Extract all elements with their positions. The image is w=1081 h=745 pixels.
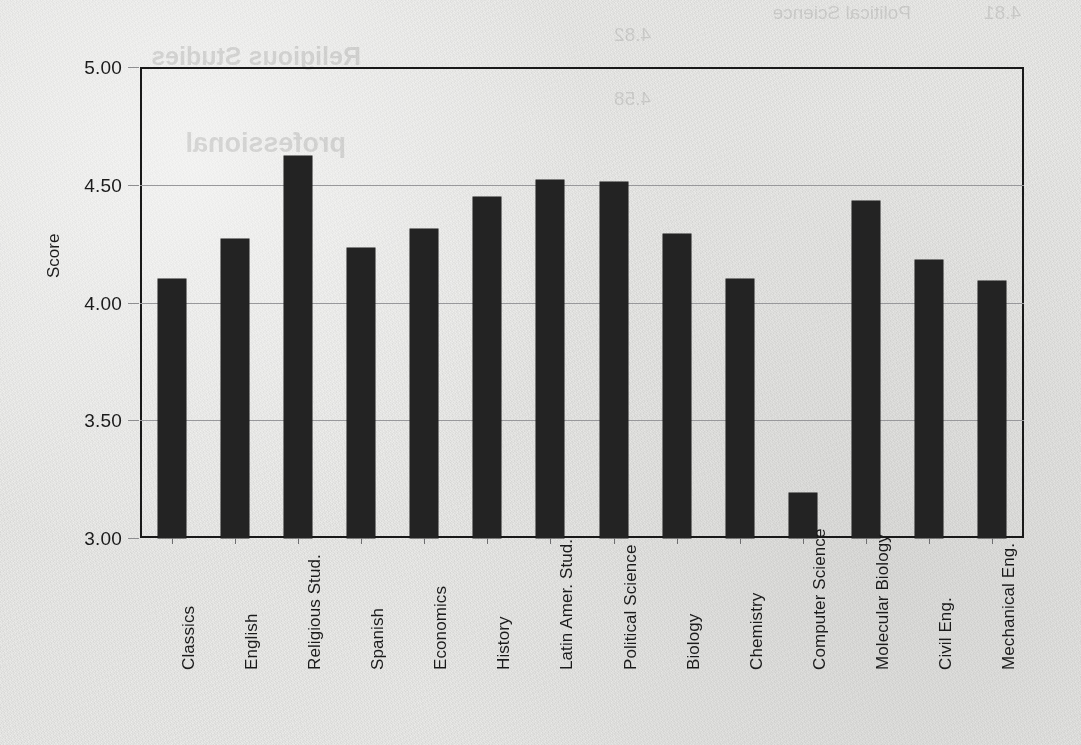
- x-axis-tick-mark: [740, 538, 741, 544]
- x-axis-tick-label: Economics: [431, 586, 451, 670]
- bar: [536, 180, 564, 538]
- x-axis-tick-label: Chemistry: [747, 593, 767, 670]
- bar: [158, 279, 186, 538]
- x-axis-tick-mark: [929, 538, 930, 544]
- x-axis-tick-label: Civil Eng.: [936, 597, 956, 670]
- bar-chart: 5.004.504.003.503.00 ClassicsEnglishReli…: [0, 0, 1081, 745]
- bar: [915, 260, 943, 538]
- bar: [600, 182, 628, 538]
- y-axis-tick: 4.00: [0, 293, 122, 313]
- y-axis-tick-mark: [128, 67, 139, 68]
- x-axis-tick-label: History: [494, 616, 514, 670]
- y-axis-tick: 3.50: [0, 410, 122, 430]
- x-axis-tick-label: Molecular Biology: [873, 534, 893, 670]
- y-axis-tick-mark: [128, 420, 139, 421]
- x-axis-tick-mark: [361, 538, 362, 544]
- x-axis-tick-label: Spanish: [368, 608, 388, 670]
- bar: [852, 201, 880, 538]
- y-axis-tick-mark: [128, 303, 139, 304]
- x-axis-tick-label: Mechanical Eng.: [999, 543, 1019, 670]
- bar: [726, 279, 754, 538]
- y-axis-tick-label: 5.00: [0, 57, 122, 79]
- y-axis-tick: 3.00: [0, 528, 122, 548]
- y-axis-tick-label: 4.50: [0, 175, 122, 197]
- y-axis-tick: 5.00: [0, 57, 122, 77]
- x-axis-tick-mark: [298, 538, 299, 544]
- x-axis-tick-label: English: [242, 614, 262, 670]
- x-axis-tick-label: Classics: [179, 606, 199, 670]
- bar: [663, 234, 691, 538]
- bar: [978, 281, 1006, 538]
- gridline: [140, 303, 1024, 304]
- y-axis-tick-mark: [128, 538, 139, 539]
- bar: [284, 156, 312, 538]
- y-axis-tick-mark: [128, 185, 139, 186]
- x-axis-tick-mark: [677, 538, 678, 544]
- x-axis-tick-label: Biology: [684, 614, 704, 670]
- gridline: [140, 420, 1024, 421]
- x-axis-tick-label: Latin Amer. Stud.: [557, 539, 577, 670]
- bar: [410, 229, 438, 538]
- bar: [473, 197, 501, 538]
- y-axis-tick: 4.50: [0, 175, 122, 195]
- bar: [347, 248, 375, 538]
- x-axis-tick-mark: [803, 538, 804, 544]
- y-axis-tick-label: 3.50: [0, 410, 122, 432]
- x-axis-tick-label: Computer Science: [810, 529, 830, 670]
- x-axis-tick-mark: [487, 538, 488, 544]
- x-axis-tick-mark: [424, 538, 425, 544]
- x-axis-tick-label: Religious Stud.: [305, 554, 325, 670]
- x-axis-tick-mark: [235, 538, 236, 544]
- x-axis-tick-mark: [614, 538, 615, 544]
- x-axis-tick-mark: [172, 538, 173, 544]
- x-axis-tick-mark: [866, 538, 867, 544]
- bar: [221, 239, 249, 538]
- x-axis-tick-mark: [550, 538, 551, 544]
- y-axis-title: Score: [44, 234, 64, 278]
- gridline: [140, 185, 1024, 186]
- x-axis-tick-mark: [992, 538, 993, 544]
- y-axis-tick-label: 3.00: [0, 528, 122, 550]
- x-axis-tick-label: Political Science: [621, 545, 641, 670]
- y-axis-tick-label: 4.00: [0, 293, 122, 315]
